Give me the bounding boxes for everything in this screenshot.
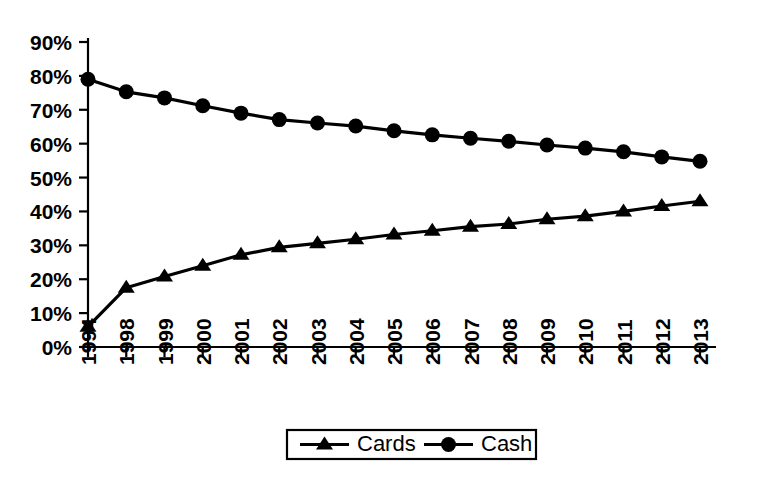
x-axis-tick-label: 2011 [613, 319, 636, 365]
x-axis-tick-label: 1998 [115, 318, 138, 365]
x-axis-tick-label: 2005 [383, 318, 406, 365]
data-point-cash-1998 [119, 84, 134, 99]
chart-canvas: 0%10%20%30%40%50%60%70%80%90% 1994199819… [0, 0, 758, 488]
x-axis-tick-label: 1999 [154, 318, 177, 365]
x-axis-tick-label: 2007 [460, 318, 483, 365]
x-axis-tick-label: 2009 [536, 318, 559, 365]
x-axis-tick-label: 2003 [307, 318, 330, 365]
data-point-cash-1999 [157, 90, 172, 105]
y-axis-tick-label: 10% [30, 302, 72, 325]
y-axis-tick-label: 60% [30, 133, 72, 156]
legend-marker-cash [441, 437, 456, 452]
data-point-cash-2001 [234, 106, 249, 121]
x-axis-tick-label: 2002 [268, 318, 291, 365]
chart-legend[interactable]: CardsCash [287, 430, 536, 459]
data-point-cash-2004 [348, 119, 363, 134]
y-axis-tick-label: 20% [30, 268, 72, 291]
data-point-cash-2010 [578, 141, 593, 156]
data-point-cash-1994 [81, 72, 96, 87]
y-axis-tick-label: 90% [30, 31, 72, 54]
x-axis-tick-label: 2012 [651, 318, 674, 365]
x-axis-tick-label: 2001 [230, 318, 253, 365]
data-point-cash-2013 [693, 154, 708, 169]
data-point-cash-2012 [654, 149, 669, 164]
x-axis-tick-label: 2006 [421, 318, 444, 365]
x-axis-tick-label: 2000 [192, 318, 215, 365]
data-point-cash-2002 [272, 112, 287, 127]
x-axis-tick-label: 2013 [689, 318, 712, 365]
chart-background [0, 0, 758, 488]
y-axis-tick-label: 50% [30, 167, 72, 190]
y-axis-tick-label: 40% [30, 200, 72, 223]
x-axis: 1994199819992000200120022003200420052006… [77, 318, 716, 365]
y-axis-tick-label: 30% [30, 234, 72, 257]
data-point-cash-2003 [310, 115, 325, 130]
data-point-cash-2006 [425, 127, 440, 142]
y-axis-tick-label: 70% [30, 99, 72, 122]
legend-label-cards: Cards [357, 431, 416, 456]
data-point-cash-2009 [540, 138, 555, 153]
line-chart: 0%10%20%30%40%50%60%70%80%90% 1994199819… [0, 0, 758, 488]
y-axis-tick-label: 80% [30, 65, 72, 88]
data-point-cash-2011 [616, 144, 631, 159]
x-axis-tick-label: 2004 [345, 318, 368, 365]
legend-label-cash: Cash [481, 431, 532, 456]
data-point-cash-2000 [195, 98, 210, 113]
x-axis-tick-label: 2010 [574, 318, 597, 365]
y-axis-tick-label: 0% [42, 336, 73, 359]
x-axis-tick-label: 2008 [498, 318, 521, 365]
data-point-cash-2005 [387, 123, 402, 138]
data-point-cash-2007 [463, 131, 478, 146]
data-point-cash-2008 [501, 134, 516, 149]
